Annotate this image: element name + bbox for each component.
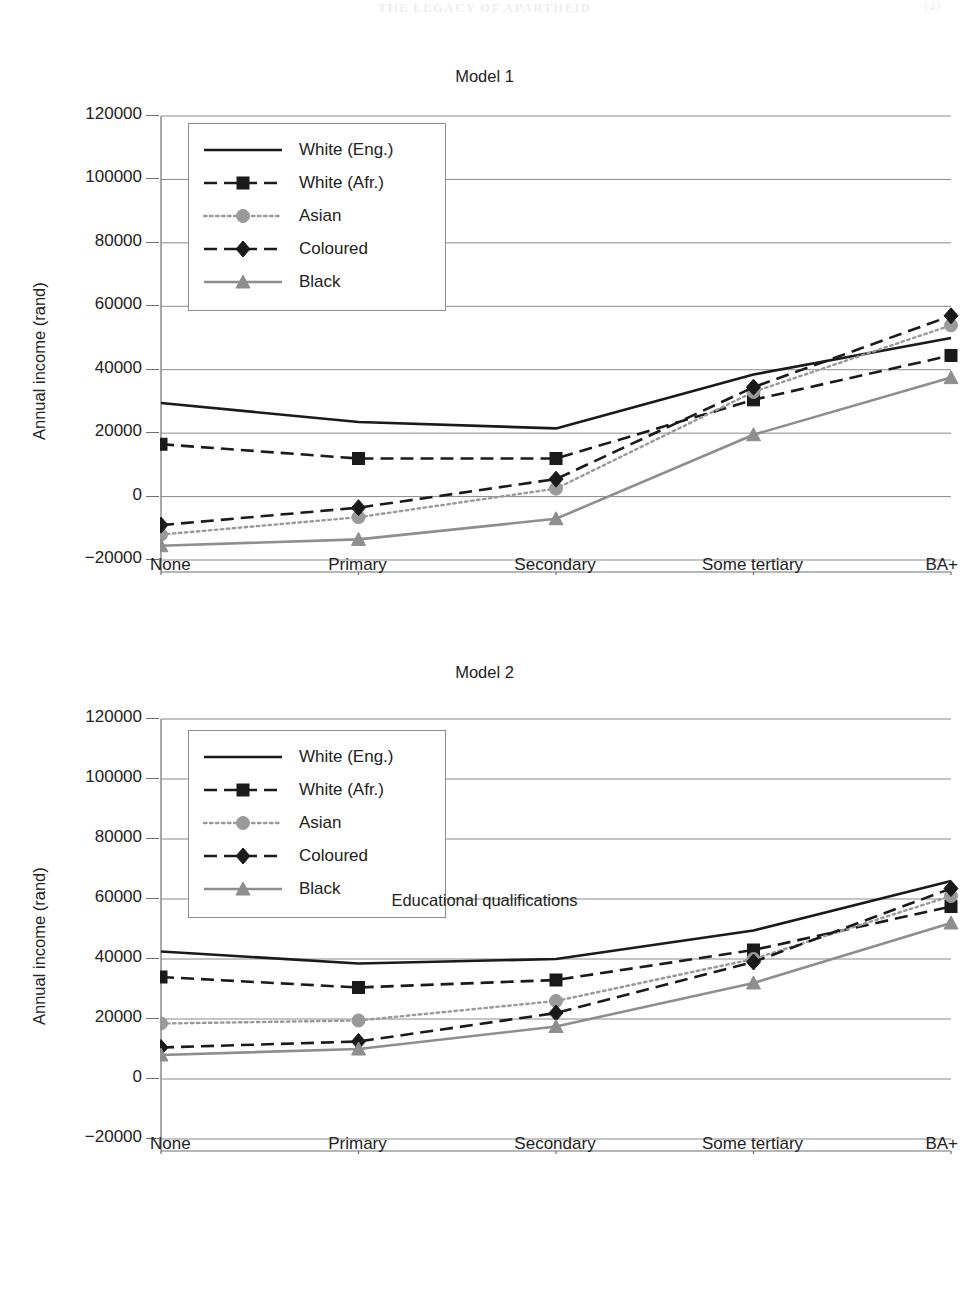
legend-item-label: White (Eng.) bbox=[285, 747, 393, 767]
y-axis-tick-mark bbox=[146, 1018, 159, 1019]
y-axis-tick-label: 80000 bbox=[22, 827, 142, 847]
y-axis-tick-label: 0 bbox=[22, 1067, 142, 1087]
legend-item-label: Black bbox=[285, 272, 341, 292]
y-axis-tick-label: 120000 bbox=[22, 707, 142, 727]
y-axis-tick-label: 40000 bbox=[22, 947, 142, 967]
legend-item-coloured[interactable]: Coloured bbox=[201, 232, 445, 265]
y-axis-tick-label: 100000 bbox=[22, 167, 142, 187]
series-coloured bbox=[160, 308, 958, 533]
legend-item-label: Asian bbox=[285, 813, 342, 833]
chart-panel-model-1: Model 1 Annual income (rand) 12000010000… bbox=[0, 55, 969, 635]
x-axis-tick-label-ba: BA+ bbox=[788, 555, 958, 575]
dotted-grey-circle-line-icon bbox=[201, 206, 285, 226]
series-white-afr bbox=[160, 349, 957, 464]
y-axis-tick-label: −20000 bbox=[22, 1127, 142, 1147]
dashed-black-diamond-line-icon bbox=[201, 239, 285, 259]
running-head-text: THE LEGACY OF APARTHEID bbox=[378, 0, 591, 14]
y-axis-tick-label: 120000 bbox=[22, 104, 142, 124]
y-axis-tick-mark bbox=[146, 958, 159, 959]
y-axis-tick-label: 20000 bbox=[22, 421, 142, 441]
y-axis-tick-mark bbox=[146, 178, 159, 179]
legend-model-2: White (Eng.)White (Afr.)AsianColouredBla… bbox=[188, 730, 446, 918]
legend-item-label: White (Afr.) bbox=[285, 173, 384, 193]
y-axis-tick-label: 80000 bbox=[22, 231, 142, 251]
legend-item-white-eng[interactable]: White (Eng.) bbox=[201, 740, 445, 773]
legend-item-label: Coloured bbox=[285, 846, 368, 866]
x-axis-tick-label-secondary: Secondary bbox=[465, 555, 645, 575]
running-head: THE LEGACY OF APARTHEID bbox=[0, 0, 969, 14]
y-axis-tick-mark bbox=[146, 1078, 159, 1079]
chart-panel-model-2: Model 2 Annual income (rand) 12000010000… bbox=[0, 655, 969, 1289]
legend-item-white-afr[interactable]: White (Afr.) bbox=[201, 166, 445, 199]
dotted-grey-circle-line-icon bbox=[201, 813, 285, 833]
chart-title-model-2: Model 2 bbox=[0, 663, 969, 682]
legend-item-label: White (Afr.) bbox=[285, 780, 384, 800]
x-axis-tick-label-primary: Primary bbox=[268, 1134, 448, 1154]
y-axis-tick-label: 20000 bbox=[22, 1007, 142, 1027]
dashed-black-square-line-icon bbox=[201, 173, 285, 193]
y-axis-tick-mark bbox=[146, 778, 159, 779]
legend-item-label: White (Eng.) bbox=[285, 140, 393, 160]
y-axis-tick-mark bbox=[146, 115, 159, 116]
legend-item-label: Coloured bbox=[285, 239, 368, 259]
series-black bbox=[160, 916, 958, 1061]
y-axis-tick-mark bbox=[146, 838, 159, 839]
y-axis-tick-label: 60000 bbox=[22, 294, 142, 314]
y-axis-tick-label: −20000 bbox=[22, 548, 142, 568]
y-axis-tick-label: 40000 bbox=[22, 358, 142, 378]
y-axis-tick-label: 100000 bbox=[22, 767, 142, 787]
y-axis-tick-mark bbox=[146, 432, 159, 433]
legend-item-black[interactable]: Black bbox=[201, 265, 445, 298]
legend-item-label: Asian bbox=[285, 206, 342, 226]
y-axis-tick-mark bbox=[146, 305, 159, 306]
x-axis-tick-label-ba: BA+ bbox=[788, 1134, 958, 1154]
x-axis-tick-label-secondary: Secondary bbox=[465, 1134, 645, 1154]
y-axis-tick-mark bbox=[146, 718, 159, 719]
solid-grey-triangle-line-icon bbox=[201, 272, 285, 292]
page-folio: 143 bbox=[923, 0, 941, 14]
y-axis-tick-mark bbox=[146, 242, 159, 243]
solid-black-line-icon bbox=[201, 140, 285, 160]
legend-item-white-afr[interactable]: White (Afr.) bbox=[201, 773, 445, 806]
legend-item-white-eng[interactable]: White (Eng.) bbox=[201, 133, 445, 166]
y-axis-tick-label: 0 bbox=[22, 485, 142, 505]
y-axis-tick-mark bbox=[146, 496, 159, 497]
y-axis-tick-mark bbox=[146, 369, 159, 370]
dashed-black-square-line-icon bbox=[201, 780, 285, 800]
legend-item-asian[interactable]: Asian bbox=[201, 199, 445, 232]
legend-item-asian[interactable]: Asian bbox=[201, 806, 445, 839]
series-asian bbox=[160, 319, 958, 541]
legend-model-1: White (Eng.)White (Afr.)AsianColouredBla… bbox=[188, 123, 446, 311]
chart-title-model-1: Model 1 bbox=[0, 67, 969, 86]
x-axis-tick-label-primary: Primary bbox=[268, 555, 448, 575]
legend-item-coloured[interactable]: Coloured bbox=[201, 839, 445, 872]
x-axis-label-model-2: Educational qualifications bbox=[0, 891, 969, 910]
dashed-black-diamond-line-icon bbox=[201, 846, 285, 866]
solid-black-line-icon bbox=[201, 747, 285, 767]
